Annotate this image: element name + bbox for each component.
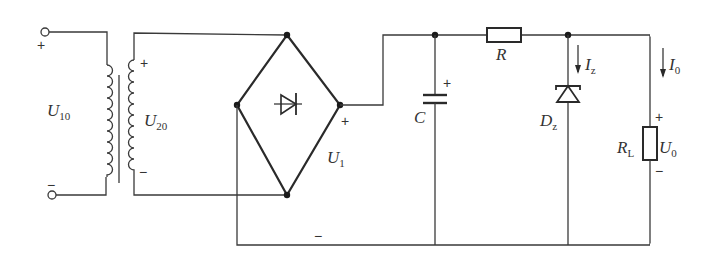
load-resistor-label: RL <box>616 138 634 159</box>
diode-icon <box>274 93 302 115</box>
primary-coil <box>107 65 113 177</box>
capacitor-plus-sign: + <box>443 75 451 91</box>
bridge-top-node <box>284 32 290 38</box>
bridge-diamond <box>237 35 340 195</box>
positive-rail <box>340 35 706 105</box>
secondary-coil <box>129 60 134 175</box>
rectified-minus-sign: − <box>314 228 322 244</box>
output-voltage-label: U0 <box>659 138 677 159</box>
secondary-bottom-wire <box>134 175 287 195</box>
primary-voltage-label: U10 <box>47 101 71 122</box>
primary-minus-sign: − <box>47 177 55 193</box>
zener-current-arrow-icon <box>575 45 581 74</box>
zener-label: Dz <box>539 111 557 132</box>
load-current-arrow-icon <box>660 48 666 78</box>
output-plus-sign: + <box>655 109 663 125</box>
circuit-diagram: + − U10 + − U20 + U1 − + C R Dz Iz I0 + … <box>0 0 717 263</box>
series-resistor <box>487 28 521 42</box>
secondary-plus-sign: + <box>140 55 148 71</box>
resistor-label: R <box>495 45 507 64</box>
rectified-plus-sign: + <box>341 113 349 129</box>
rectified-voltage-label: U1 <box>327 148 345 169</box>
secondary-minus-sign: − <box>139 164 147 180</box>
negative-rail <box>237 105 708 245</box>
secondary-voltage-label: U20 <box>144 111 168 132</box>
primary-top-terminal <box>41 28 49 36</box>
capacitor <box>423 32 447 245</box>
output-minus-sign: − <box>655 163 663 179</box>
bridge-bottom-node <box>284 192 290 198</box>
load-current-label: I0 <box>668 55 681 76</box>
primary-bottom-wire <box>56 177 106 195</box>
primary-top-wire <box>49 32 107 65</box>
bridge-rectifier <box>234 32 343 198</box>
primary-plus-sign: + <box>37 37 45 53</box>
capacitor-label: C <box>414 108 426 127</box>
secondary-top-wire <box>134 33 287 60</box>
zener-current-label: Iz <box>584 55 596 76</box>
zener-diode <box>556 32 581 245</box>
